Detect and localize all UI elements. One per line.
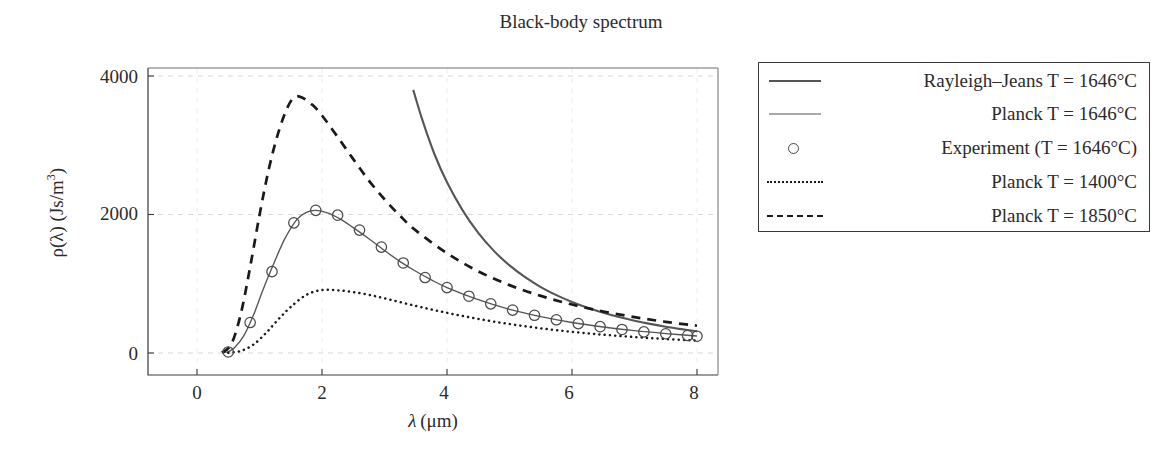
legend-sample-solid-line-planck <box>759 97 831 131</box>
legend-label-planck-1850: Planck T = 1850°C <box>831 205 1151 227</box>
legend-entry-rayleigh-jeans[interactable]: Rayleigh–Jeans T = 1646°C <box>759 64 1151 98</box>
legend-entry-experiment[interactable]: Experiment (T = 1646°C) <box>759 131 1151 165</box>
curve-rayleigh-jeans <box>413 90 697 331</box>
legend-sample-solid-line-rj <box>759 64 831 98</box>
curve-planck-1400 <box>228 290 697 353</box>
legend-label-planck-1400: Planck T = 1400°C <box>831 171 1151 193</box>
legend-label-planck-1646: Planck T = 1646°C <box>831 103 1151 125</box>
legend-label-rayleigh-jeans: Rayleigh–Jeans T = 1646°C <box>831 70 1151 92</box>
curve-planck-1646 <box>222 210 697 353</box>
legend-box: Rayleigh–Jeans T = 1646°C Planck T = 164… <box>758 62 1150 232</box>
data-curves <box>222 90 697 353</box>
axis-frame-top-right <box>148 68 718 375</box>
data-marker-experiment <box>376 242 386 252</box>
legend-sample-dotted-line <box>759 165 831 199</box>
legend-sample-dashed-line <box>759 199 831 233</box>
blackbody-spectrum-figure: Black-body spectrum ρ(λ) (Js/m3) λ (μm) … <box>0 0 1162 459</box>
gridlines <box>148 68 718 375</box>
legend-sample-circle-marker <box>759 131 831 165</box>
legend-entry-planck-1400[interactable]: Planck T = 1400°C <box>759 165 1151 199</box>
legend-entry-planck-1850[interactable]: Planck T = 1850°C <box>759 199 1151 233</box>
data-marker-experiment <box>420 272 430 282</box>
legend-label-experiment: Experiment (T = 1646°C) <box>831 137 1151 159</box>
experiment-markers <box>223 205 702 357</box>
legend-entry-planck-1646[interactable]: Planck T = 1646°C <box>759 97 1151 131</box>
axis-frame <box>148 68 718 375</box>
